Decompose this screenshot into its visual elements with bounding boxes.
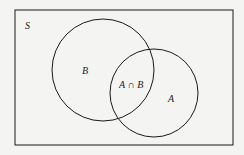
set-a-circle — [110, 49, 198, 137]
venn-diagram: S B A ∩ B A — [0, 0, 244, 155]
intersection-label: A ∩ B — [118, 79, 143, 90]
set-b-label: B — [82, 65, 88, 76]
set-b-circle — [52, 19, 154, 121]
set-a-label: A — [167, 93, 175, 104]
universe-label: S — [25, 20, 30, 31]
